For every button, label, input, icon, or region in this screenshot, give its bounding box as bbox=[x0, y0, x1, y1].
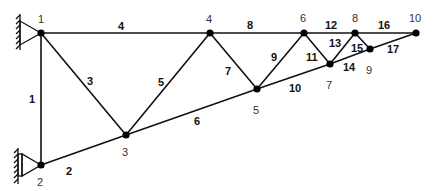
member-label: 1 bbox=[29, 93, 35, 105]
member-label: 17 bbox=[387, 43, 399, 55]
member-label: 6 bbox=[194, 115, 200, 127]
member-7 bbox=[210, 33, 257, 89]
member-label: 14 bbox=[343, 61, 356, 73]
node-3 bbox=[122, 131, 129, 138]
node-label: 8 bbox=[352, 12, 358, 24]
member-labels-layer: 1234567891011121314151617 bbox=[29, 19, 399, 177]
node-10 bbox=[412, 29, 419, 36]
member-label: 4 bbox=[118, 20, 125, 32]
member-label: 5 bbox=[158, 76, 164, 88]
member-label: 10 bbox=[289, 82, 301, 94]
node-label: 6 bbox=[300, 12, 306, 24]
node-6 bbox=[300, 29, 307, 36]
node-9 bbox=[366, 45, 373, 52]
node-4 bbox=[206, 29, 213, 36]
node-2 bbox=[37, 161, 44, 168]
node-label: 4 bbox=[206, 13, 212, 25]
member-label: 7 bbox=[225, 65, 231, 77]
member-label: 15 bbox=[351, 42, 363, 54]
member-label: 8 bbox=[247, 19, 253, 31]
node-label: 9 bbox=[366, 64, 372, 76]
node-label: 5 bbox=[253, 104, 259, 116]
node-5 bbox=[253, 85, 260, 92]
member-label: 3 bbox=[87, 75, 93, 87]
node-label: 2 bbox=[37, 176, 43, 188]
member-3 bbox=[41, 33, 126, 135]
node-7 bbox=[326, 60, 333, 67]
truss-diagram: 1234567891011121314151617 12345678910 bbox=[0, 0, 436, 191]
node-label: 10 bbox=[409, 12, 421, 24]
node-label: 3 bbox=[122, 146, 128, 158]
member-2 bbox=[41, 135, 126, 165]
member-label: 13 bbox=[329, 37, 341, 49]
member-label: 11 bbox=[306, 51, 318, 63]
member-label: 9 bbox=[271, 51, 277, 63]
node-1 bbox=[37, 29, 44, 36]
member-label: 2 bbox=[66, 165, 72, 177]
node-label: 7 bbox=[326, 79, 332, 91]
node-labels-layer: 12345678910 bbox=[37, 12, 421, 188]
node-8 bbox=[351, 29, 358, 36]
member-label: 12 bbox=[325, 19, 337, 31]
node-label: 1 bbox=[38, 13, 44, 25]
member-label: 16 bbox=[378, 19, 390, 31]
